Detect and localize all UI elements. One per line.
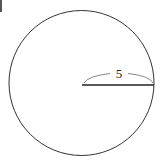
radius-label: 5 bbox=[116, 66, 123, 81]
radius-brace-right bbox=[128, 74, 153, 84]
circle-outline bbox=[9, 11, 154, 156]
radius-brace-left bbox=[84, 74, 110, 84]
circle-diagram: 5 bbox=[0, 0, 162, 167]
